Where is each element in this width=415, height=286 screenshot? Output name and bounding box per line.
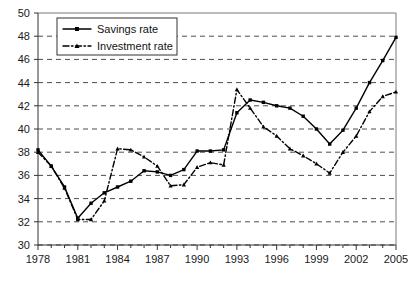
chart-legend: Savings rateInvestment rate [57, 18, 177, 55]
x-axis-tick-label: 1990 [185, 253, 209, 265]
x-axis-tick-label: 2002 [344, 253, 368, 265]
data-point-marker [301, 115, 304, 118]
data-point-marker [394, 90, 398, 94]
data-point-marker [155, 164, 159, 168]
data-point-marker [262, 101, 265, 104]
y-axis-tick-label: 44 [18, 77, 30, 89]
y-axis-tick-label: 40 [18, 123, 30, 135]
data-point-marker [328, 142, 331, 145]
data-point-marker [89, 202, 92, 205]
data-point-marker [195, 149, 198, 152]
y-axis-tick-label: 46 [18, 53, 30, 65]
y-axis-tick-label: 42 [18, 100, 30, 112]
y-axis-tick-label: 32 [18, 216, 30, 228]
y-axis-tick-labels: 3032343638404244464850 [18, 7, 30, 251]
data-point-marker [235, 111, 238, 114]
data-point-marker [235, 87, 239, 91]
data-point-marker [381, 59, 384, 62]
data-point-marker [115, 147, 119, 151]
data-point-marker [222, 148, 225, 151]
data-point-marker [275, 134, 279, 138]
series-group [36, 36, 398, 222]
data-point-marker [368, 81, 371, 84]
series-markers-2 [36, 87, 398, 221]
data-point-marker [182, 168, 185, 171]
legend-label: Investment rate [97, 40, 173, 52]
data-point-marker [301, 153, 305, 157]
data-point-marker [381, 94, 385, 98]
legend-label: Savings rate [97, 23, 158, 35]
data-point-marker [288, 106, 291, 109]
data-point-marker [116, 185, 119, 188]
data-point-marker [156, 170, 159, 173]
data-point-marker [129, 180, 132, 183]
series-line-1 [38, 37, 396, 218]
data-point-marker [394, 36, 397, 39]
x-axis-tick-label: 1981 [66, 253, 90, 265]
data-point-marker [341, 128, 344, 131]
y-axis-tick-label: 34 [18, 193, 30, 205]
data-point-marker [195, 165, 199, 169]
series-line-2 [38, 90, 396, 220]
x-axis-tick-label: 1978 [26, 253, 50, 265]
x-axis-tick-label: 1987 [145, 253, 169, 265]
data-point-marker [355, 106, 358, 109]
x-axis-tick-label: 1993 [225, 253, 249, 265]
x-axis-tick-label: 2005 [384, 253, 408, 265]
data-point-marker [248, 98, 251, 101]
x-axis-tick-label: 1999 [304, 253, 328, 265]
y-axis-tick-label: 36 [18, 169, 30, 181]
data-point-marker [275, 104, 278, 107]
y-axis-tick-label: 50 [18, 7, 30, 19]
line-chart: 3032343638404244464850 19781981198419871… [0, 0, 415, 286]
y-axis-tick-label: 30 [18, 239, 30, 251]
series-markers-1 [36, 36, 397, 220]
y-axis-tick-label: 48 [18, 30, 30, 42]
y-tick-marks-group [34, 13, 38, 245]
x-axis-tick-label: 1996 [264, 253, 288, 265]
x-minor-ticks-group [38, 245, 396, 250]
chart-container: 3032343638404244464850 19781981198419871… [0, 0, 415, 286]
legend-swatch-marker [75, 27, 79, 31]
data-point-marker [315, 127, 318, 130]
data-point-marker [102, 199, 106, 203]
x-axis-tick-labels: 1978198119841987199019931996199920022005 [26, 253, 408, 265]
data-point-marker [261, 124, 265, 128]
x-axis-tick-label: 1984 [105, 253, 129, 265]
data-point-marker [142, 169, 145, 172]
data-point-marker [209, 149, 212, 152]
data-point-marker [222, 163, 226, 167]
y-axis-tick-label: 38 [18, 146, 30, 158]
data-point-marker [169, 174, 172, 177]
gridlines-group [38, 36, 396, 245]
